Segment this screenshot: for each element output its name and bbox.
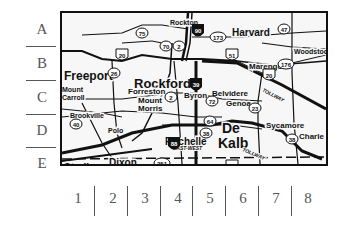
svg-text:75: 75 [139,31,146,37]
col-label-6: 6 [233,190,253,207]
route-shield-icon: 75 [136,28,148,38]
svg-text:64: 64 [207,119,214,125]
route-shield-icon: 251 [154,158,170,164]
row-label-e: E [30,155,54,172]
city-label: Byron [184,91,207,100]
road-map: RocktonHarvardWoodstockFreeportRockfordM… [60,11,328,166]
col-divider [94,186,95,216]
svg-text:251: 251 [157,161,168,165]
city-label: Dixon [109,157,137,164]
svg-text:173: 173 [213,35,224,41]
route-shield-icon: 72 [206,96,218,106]
city-label: Woodstock [294,48,326,55]
route-shield-icon: 30 [226,160,238,164]
route-shield-icon: 20 [116,49,128,60]
svg-text:51: 51 [229,53,236,59]
row-label-d: D [30,122,54,139]
svg-text:38: 38 [289,137,296,143]
city-label: Genoa [226,99,251,108]
svg-text:20: 20 [119,53,126,59]
route-shield-icon: 176 [278,59,294,69]
route-shield-icon: 47 [278,24,290,34]
col-label-1: 1 [68,190,88,207]
svg-text:47: 47 [281,27,288,33]
col-label-3: 3 [135,190,155,207]
svg-text:176: 176 [281,62,292,68]
route-shield-icon: 51 [226,49,238,60]
route-shield-icon: 26 [108,68,120,78]
city-label: Polo [108,127,123,134]
row-divider [26,46,56,47]
city-label: Harvard [232,27,270,38]
map-canvas: RocktonHarvardWoodstockFreeportRockfordM… [62,13,326,164]
col-divider [258,186,259,216]
route-shield-icon: 23 [249,103,261,113]
svg-text:30: 30 [229,164,236,165]
route-shield-icon: 2 [165,92,177,102]
col-label-8: 8 [298,190,318,207]
row-divider [26,114,56,115]
route-shield-icon: 38 [286,134,298,144]
city-label: De [222,120,240,136]
col-divider [160,186,161,216]
route-shield-icon: 20 [263,69,275,80]
col-divider [192,186,193,216]
city-label: Sterling [64,162,101,164]
col-label-4: 4 [168,190,188,207]
svg-text:90: 90 [195,28,202,34]
svg-text:40: 40 [73,122,80,128]
road-label: TOLLWAY [242,146,267,161]
route-shield-icon: 38 [200,128,212,138]
city-label: Freeport [64,69,113,83]
city-label: Forreston [128,87,165,96]
city-label: Carroll [62,94,85,101]
row-label-b: B [30,55,54,72]
route-shield-icon: 173 [210,32,226,42]
road-label: TOLLWAY [262,87,286,104]
route-shield-icon: 2 [173,41,185,51]
col-label-5: 5 [200,190,220,207]
svg-text:23: 23 [252,106,259,112]
col-divider [291,186,292,216]
route-shield-icon: 70 [160,41,172,51]
interstate-shield-icon: 39 [190,78,202,91]
route-shield-icon: 40 [70,119,82,129]
row-divider [26,80,56,81]
interstate-shield-icon: 88 [168,137,180,150]
col-divider [127,186,128,216]
row-label-a: A [30,21,54,38]
svg-text:70: 70 [163,44,170,50]
route-shield-icon: 64 [204,116,216,126]
svg-text:38: 38 [203,131,210,137]
row-divider [26,147,56,148]
svg-text:20: 20 [266,73,273,79]
city-label: Charle [299,132,324,141]
interstate-shield-icon: 90 [192,24,204,37]
svg-text:72: 72 [209,99,216,105]
col-divider [225,186,226,216]
col-label-7: 7 [266,190,286,207]
col-label-2: 2 [103,190,123,207]
city-label: Mount [62,86,84,93]
city-label: Sycamore [266,121,305,130]
city-label: Brookville [70,112,104,119]
svg-text:39: 39 [193,82,200,88]
city-label: Morris [138,104,163,113]
svg-text:88: 88 [171,141,178,147]
svg-text:26: 26 [111,71,118,77]
city-label: Belvidere [212,89,249,98]
row-label-c: C [30,89,54,106]
